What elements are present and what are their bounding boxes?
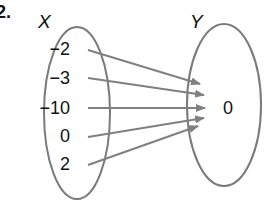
mapping-diagram: 2. X Y −2 −3 −10 0 2 0 — [0, 0, 265, 202]
domain-element: 0 — [60, 126, 70, 146]
mapping-arrow — [88, 118, 204, 137]
domain-element: −3 — [49, 68, 70, 88]
domain-element: −10 — [39, 98, 70, 118]
problem-number: 2. — [0, 2, 11, 22]
mapping-arrow — [88, 126, 198, 165]
domain-element: −2 — [49, 39, 70, 59]
codomain-set-label: Y — [190, 11, 204, 32]
codomain-element: 0 — [223, 98, 233, 118]
domain-element: 2 — [60, 154, 70, 174]
domain-set-label: X — [37, 11, 52, 32]
